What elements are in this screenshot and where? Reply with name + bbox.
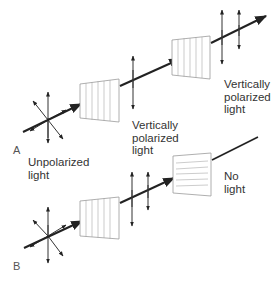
panel-letter-b: B [13, 260, 20, 272]
label-unpolarized-light: Unpolarized light [28, 156, 89, 181]
label-vertically-polarized-a2: Vertically polarized light [224, 78, 271, 116]
unpolarized-light-symbol-a [30, 92, 66, 143]
unpolarized-light-symbol-b [30, 207, 66, 263]
beam-b-2 [120, 178, 174, 203]
polarizer-b-2-horizontal [173, 153, 211, 196]
label-vertically-polarized-a1: Vertically polarized light [132, 119, 179, 157]
beam-a-1 [23, 104, 81, 132]
label-no-light: No light [224, 170, 245, 195]
panel-letter-a: A [13, 144, 20, 156]
polarization-diagram: A Unpolarized light Vertically polarized… [0, 0, 277, 281]
polarizer-a-2-vertical [172, 36, 210, 79]
polarizer-a-1-vertical [80, 79, 119, 122]
polarizer-b-1-vertical [80, 197, 119, 239]
beam-b-3 [212, 137, 258, 160]
beam-a-2 [120, 59, 180, 86]
beam-b-1 [24, 221, 82, 248]
